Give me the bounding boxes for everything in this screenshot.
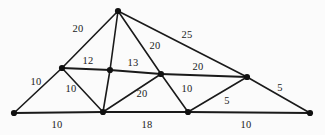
edge-weight-label-E-F: 20 [137,88,148,99]
edge-A-E [14,112,103,113]
edge-C-D [110,11,118,70]
weighted-graph-figure: 1010201210202513201810205105 [0,0,325,135]
edge-weight-label-C-F: 20 [150,40,161,51]
edge-weight-label-B-E: 10 [66,83,77,94]
vertex-bottom-center-left [100,109,106,115]
vertices-group [11,8,313,116]
vertex-bottom-right [307,110,313,116]
vertex-center-right [158,71,164,77]
vertex-bottom-left [11,110,17,116]
edge-weight-label-C-H: 25 [182,29,193,40]
edge-weight-label-F-G: 10 [182,83,193,94]
edge-weight-label-G-I: 10 [241,119,252,130]
edge-weight-label-G-H: 5 [224,95,229,106]
graph-canvas [0,0,325,135]
edge-B-D [62,68,110,70]
edge-weight-label-A-E: 10 [52,119,63,130]
edge-D-F [110,70,161,74]
edge-G-H [188,77,247,112]
vertex-apex [115,8,121,14]
edge-weight-label-D-F: 13 [128,57,139,68]
edge-weight-label-E-G: 18 [142,119,153,130]
edge-weight-label-F-H: 20 [193,61,204,72]
edge-G-I [188,112,310,113]
edge-weight-label-B-C: 20 [73,23,84,34]
edge-weight-label-A-B: 10 [31,76,42,87]
edge-E-F [103,74,161,112]
vertex-upper-left [59,65,65,71]
vertex-center-left [107,67,113,73]
edges-group [14,11,310,113]
edge-weight-label-H-I: 5 [277,82,282,93]
edge-weight-label-B-D: 12 [83,55,94,66]
vertex-bottom-center-right [185,109,191,115]
vertex-upper-right [244,74,250,80]
edge-F-H [161,74,247,77]
edge-D-E [103,70,110,112]
